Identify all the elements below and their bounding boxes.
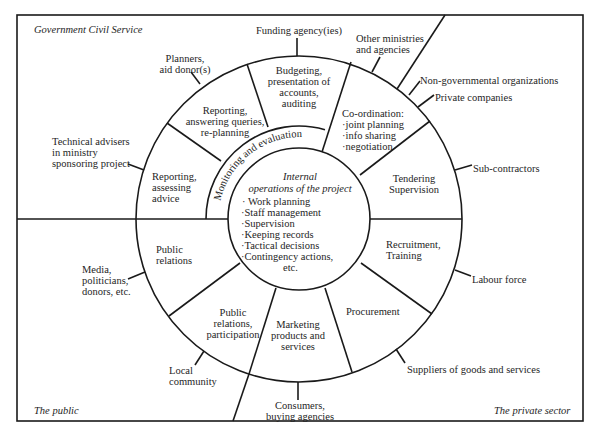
actor-labour-force: Labour force (472, 274, 527, 285)
segment-public-relations-participation: Public relations, participation (196, 307, 270, 340)
core-item: ·Tactical decisions (241, 240, 319, 251)
core-item: ·Keeping records (241, 229, 314, 240)
core-item: ·Staff management (241, 207, 321, 218)
segment-recruitment: Recruitment, Training (386, 239, 441, 261)
core-item: ·Contingency actions, (241, 251, 333, 262)
sector-label-private: The private sector (494, 405, 570, 416)
segment-budgeting: Budgeting, presentation of accounts, aud… (258, 65, 340, 109)
leader-subcontractors (455, 165, 472, 170)
actor-private-companies: Private companies (435, 92, 512, 103)
leader-private-companies (418, 95, 434, 107)
leader-local-community (195, 351, 204, 365)
segment-reporting-assessing: Reporting, assessing advice (152, 171, 197, 204)
sector-label-government: Government Civil Service (34, 24, 142, 35)
actor-sub-contractors: Sub-contractors (473, 163, 539, 174)
leader-suppliers (396, 349, 405, 363)
segment-coordination: Co-ordination: ·joint planning ·info sha… (342, 108, 404, 152)
segment-public-relations: Public relations (156, 244, 192, 266)
segment-marketing: Marketing products and services (263, 319, 333, 352)
segment-reporting-answering: Reporting, answering queries, re-plannin… (180, 105, 270, 138)
leader-other-ministries (372, 57, 380, 72)
sector-label-public: The public (34, 405, 79, 416)
actor-other-ministries: Other ministries and agencies (356, 33, 424, 55)
actor-local-community: Local community (169, 365, 217, 387)
core-title-line2: operations of the project (235, 183, 365, 194)
actor-technical-advisers: Technical advisers in ministry sponsorin… (52, 136, 130, 169)
actor-funding-agency: Funding agency(ies) (256, 25, 342, 36)
core-item: · Work planning (242, 196, 310, 207)
core-item: ·Supervision (241, 218, 295, 229)
segment-tendering: Tendering Supervision (386, 173, 442, 195)
divider-public-private-outer (233, 374, 249, 421)
actor-media: Media, politicians, donors, etc. (82, 264, 131, 297)
core-item-tail: etc. (283, 262, 298, 273)
leader-technical-advisers (128, 164, 144, 170)
actor-planners: Planners, aid donor(s) (152, 53, 218, 75)
actor-ngos: Non-governmental organizations (420, 75, 558, 86)
actor-suppliers: Suppliers of goods and services (407, 364, 540, 375)
leader-ngos (409, 81, 420, 95)
actor-consumers: Consumers, buying agencies (256, 400, 344, 422)
segment-procurement: Procurement (346, 306, 400, 317)
leader-labour (455, 270, 471, 276)
core-title-line1: Internal (255, 171, 345, 182)
